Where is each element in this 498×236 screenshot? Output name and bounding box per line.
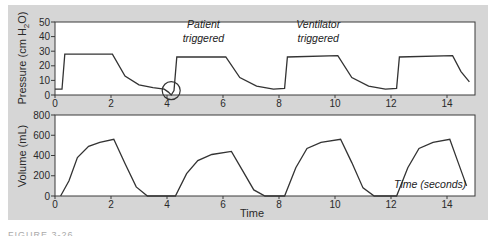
volume-y-axis-title: Volume (mL) (16, 125, 28, 187)
y-tick-label: 0 (44, 191, 50, 202)
x-tick-label: 10 (329, 199, 341, 210)
x-tick-label: 8 (276, 98, 282, 109)
y-tick-label: 30 (39, 46, 51, 57)
pressure-chart: 01020304050 02468101214 Pressure (cm H2O… (16, 11, 475, 109)
annotation-label: triggered (183, 32, 226, 44)
annotation-label: Patient (187, 18, 221, 30)
x-tick-label: 0 (52, 98, 58, 109)
x-tick-label: 6 (220, 98, 226, 109)
x-tick-label: 12 (385, 98, 397, 109)
x-tick-label: 12 (385, 199, 397, 210)
x-tick-label: 4 (164, 199, 170, 210)
figure-caption: FIGURE 3-26 (8, 230, 74, 236)
x-tick-label: 8 (276, 199, 282, 210)
x-tick-label: 14 (441, 199, 453, 210)
y-tick-label: 10 (39, 75, 51, 86)
y-tick-label: 20 (39, 60, 51, 71)
x-tick-label: 2 (108, 98, 114, 109)
volume-annotations: Time (seconds) (394, 178, 466, 190)
y-tick-label: 800 (33, 110, 50, 121)
x-tick-label: 6 (220, 199, 226, 210)
y-tick-label: 200 (33, 170, 50, 181)
volume-x-axis-title: Time (240, 207, 264, 219)
annotation-label: Time (seconds) (394, 178, 466, 190)
x-tick-label: 14 (441, 98, 453, 109)
y-tick-label: 50 (39, 17, 51, 28)
annotation-label: triggered (297, 32, 340, 44)
y-tick-label: 600 (33, 130, 50, 141)
x-tick-label: 2 (108, 199, 114, 210)
pressure-plot-area (55, 22, 475, 95)
x-tick-label: 0 (52, 199, 58, 210)
y-tick-label: 0 (44, 90, 50, 101)
annotation-label: Ventilator (296, 18, 340, 30)
x-tick-label: 10 (329, 98, 341, 109)
y-tick-label: 40 (39, 31, 51, 42)
ventilator-waveform-figure: 01020304050 02468101214 Pressure (cm H2O… (0, 0, 498, 236)
y-tick-label: 400 (33, 150, 50, 161)
